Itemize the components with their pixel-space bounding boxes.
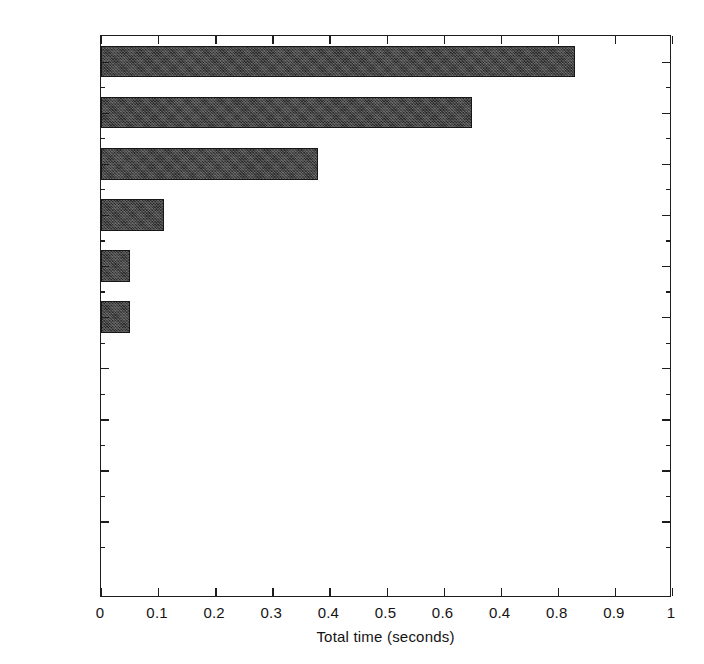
- bar-row: [101, 454, 670, 486]
- xtick-label: 0.1: [146, 604, 167, 621]
- ytick-minor: [101, 343, 105, 344]
- xtick-major: [615, 36, 616, 44]
- bar-row: [101, 199, 670, 231]
- ytick-major: [101, 368, 109, 369]
- xtick-major: [444, 36, 445, 44]
- ytick-minor: [666, 547, 670, 548]
- ytick-minor: [666, 189, 670, 190]
- ytick-major: [101, 164, 109, 165]
- ytick-major: [662, 113, 670, 114]
- bar-row: [101, 46, 670, 78]
- ytick-minor: [101, 496, 105, 497]
- ytick-major: [662, 317, 670, 318]
- xtick-major: [101, 588, 102, 596]
- bar-row: [101, 352, 670, 384]
- xtick-major: [672, 36, 673, 44]
- xtick-label: 0.8: [546, 604, 567, 621]
- ytick-major: [662, 521, 670, 522]
- ytick-major: [662, 62, 670, 63]
- xtick-label: 0.5: [375, 604, 396, 621]
- bar-series: [101, 36, 670, 596]
- xtick-major: [329, 588, 330, 596]
- xtick-major: [272, 36, 273, 44]
- ytick-major: [662, 164, 670, 165]
- ytick-minor: [101, 445, 105, 446]
- xtick-major: [158, 588, 159, 596]
- ytick-minor: [666, 291, 670, 292]
- xtick-label: 0: [96, 604, 105, 621]
- bar-row: [101, 148, 670, 180]
- ytick-major: [101, 113, 109, 114]
- bar-membrane: [101, 46, 575, 78]
- xtick-label: 0.4: [489, 604, 510, 621]
- xtick-major: [672, 588, 673, 596]
- ytick-major: [101, 521, 109, 522]
- ytick-minor: [101, 138, 105, 139]
- xtick-label: 0.9: [603, 604, 624, 621]
- ytick-major: [101, 317, 109, 318]
- xtick-major: [387, 588, 388, 596]
- xtick-label: 0.3: [261, 604, 282, 621]
- xtick-major: [101, 36, 102, 44]
- ytick-minor: [101, 394, 105, 395]
- bar-row: [101, 97, 670, 129]
- ytick-minor: [101, 189, 105, 190]
- ytick-major: [662, 266, 670, 267]
- bar-row: [101, 403, 670, 435]
- ytick-minor: [666, 343, 670, 344]
- plot-area: [100, 35, 671, 597]
- xtick-label: 1: [667, 604, 676, 621]
- ytick-minor: [666, 394, 670, 395]
- ytick-major: [662, 368, 670, 369]
- xtick-major: [615, 588, 616, 596]
- bar-row: [101, 301, 670, 333]
- xtick-major: [444, 588, 445, 596]
- ytick-major: [662, 470, 670, 471]
- xtick-major: [272, 588, 273, 596]
- xtick-major: [501, 36, 502, 44]
- xtick-label: 0.6: [432, 604, 453, 621]
- xtick-major: [158, 36, 159, 44]
- ytick-minor: [101, 547, 105, 548]
- ytick-minor: [101, 87, 105, 88]
- figure-canvas: membranebesseljbesselmxbesschklog10meshg…: [0, 0, 704, 664]
- bar-row: [101, 250, 670, 282]
- ytick-minor: [666, 87, 670, 88]
- ytick-major: [101, 266, 109, 267]
- ytick-minor: [101, 240, 105, 241]
- ytick-minor: [666, 445, 670, 446]
- xtick-major: [215, 588, 216, 596]
- xtick-major: [387, 36, 388, 44]
- ytick-major: [101, 470, 109, 471]
- xtick-label: 0.4: [318, 604, 339, 621]
- ytick-major: [101, 419, 109, 420]
- ytick-minor: [666, 496, 670, 497]
- xtick-major: [558, 36, 559, 44]
- xtick-major: [501, 588, 502, 596]
- ytick-major: [662, 215, 670, 216]
- bar-besschk: [101, 199, 164, 231]
- xtick-major: [215, 36, 216, 44]
- ytick-major: [662, 419, 670, 420]
- bar-row: [101, 506, 670, 538]
- ytick-major: [101, 215, 109, 216]
- ytick-major: [101, 62, 109, 63]
- bar-besselj: [101, 97, 472, 129]
- ytick-minor: [666, 138, 670, 139]
- ytick-minor: [101, 291, 105, 292]
- xtick-major: [558, 588, 559, 596]
- xtick-major: [329, 36, 330, 44]
- bar-besselmx: [101, 148, 318, 180]
- ytick-minor: [666, 240, 670, 241]
- x-axis-label: Total time (seconds): [100, 628, 671, 645]
- xtick-label: 0.2: [203, 604, 224, 621]
